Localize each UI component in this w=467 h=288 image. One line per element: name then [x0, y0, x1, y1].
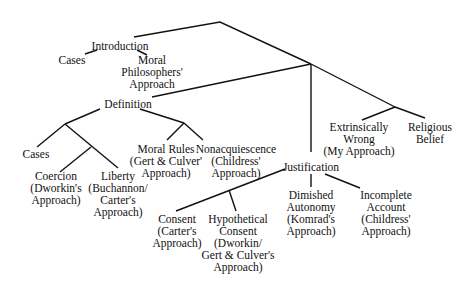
edge-religious [395, 107, 425, 118]
node-justification: Justification [283, 161, 339, 173]
edge-def-left [65, 109, 100, 124]
node-label: Introduction [92, 40, 149, 52]
edge-def-right [140, 109, 184, 123]
node-label: (Komrad's [286, 213, 335, 225]
node-consent: Consent (Carter's Approach) [152, 213, 201, 249]
node-moral-philosophers: Moral Philosophers' Approach [121, 54, 183, 90]
node-label: Approach) [286, 225, 335, 237]
node-label: (Carter's [152, 225, 201, 237]
node-label: Autonomy [286, 201, 335, 213]
node-label: Consent [202, 225, 275, 237]
node-label: Definition [104, 98, 151, 110]
node-definition: Definition [104, 98, 151, 110]
node-label: Consent [152, 213, 201, 225]
edge-hypothetical [229, 190, 236, 211]
node-label: (Dworkin/ [202, 237, 275, 249]
node-incomplete-account: Incomplete Account (Childress' Approach) [360, 189, 412, 237]
node-label: (My Approach) [323, 145, 394, 157]
node-label: Hypothetical [202, 213, 275, 225]
node-intro-cases: Cases [59, 54, 86, 66]
node-nonacquiescence: Nonacquiescence (Childress' Approach) [196, 143, 276, 179]
node-label: Cases [59, 54, 86, 66]
node-coercion: Coercion (Dworkin's Approach) [30, 170, 81, 206]
node-moral-rules: Moral Rules (Gert & Culver' Approach) [130, 143, 202, 179]
node-label: Nonacquiescence [196, 143, 276, 155]
node-dimished-autonomy: Dimished Autonomy (Komrad's Approach) [286, 189, 335, 237]
node-label: Account [360, 201, 412, 213]
node-label: Moral [121, 54, 183, 66]
node-label: Justification [283, 161, 339, 173]
node-label: (Buchannon/ [88, 182, 147, 194]
node-label: Cases [23, 148, 50, 160]
node-label: Wrong [323, 133, 394, 145]
edge-coercion [60, 147, 91, 172]
node-label: (Gert & Culver' [130, 155, 202, 167]
node-introduction: Introduction [92, 40, 149, 52]
node-label: Extrinsically [323, 121, 394, 133]
node-label: Incomplete [360, 189, 412, 201]
node-label: Approach) [196, 167, 276, 179]
node-def-cases: Cases [23, 148, 50, 160]
node-label: Approach) [130, 167, 202, 179]
node-label: (Childress' [360, 213, 412, 225]
node-label: Carter's [88, 194, 147, 206]
node-hypothetical-consent: Hypothetical Consent (Dworkin/ Gert & Cu… [202, 213, 275, 273]
edge-incomplete [325, 174, 360, 188]
tree-diagram: Introduction Cases Moral Philosophers' A… [0, 0, 467, 288]
node-label: Coercion [30, 170, 81, 182]
edge-nonacquiescence [184, 123, 203, 140]
node-label: (Dworkin's [30, 182, 81, 194]
node-label: Approach) [88, 206, 147, 218]
node-religious-belief: Religious Belief [408, 121, 452, 145]
node-label: Approach) [30, 194, 81, 206]
node-label: Belief [408, 133, 452, 145]
edge-right-branch [311, 64, 395, 107]
node-label: Gert & Culver's [202, 249, 275, 261]
edge-def-cases [37, 124, 65, 147]
node-label: Approach [121, 78, 183, 90]
node-label: Approach) [202, 261, 275, 273]
edge-extrinsically [362, 107, 395, 120]
node-label: Approach) [152, 237, 201, 249]
node-label: Philosophers' [121, 66, 183, 78]
node-label: (Childress' [196, 155, 276, 167]
node-label: Approach) [360, 225, 412, 237]
node-label: Moral Rules [130, 143, 202, 155]
node-label: Religious [408, 121, 452, 133]
node-label: Dimished [286, 189, 335, 201]
edge-moral-rules [167, 123, 184, 140]
node-extrinsically-wrong: Extrinsically Wrong (My Approach) [323, 121, 394, 157]
